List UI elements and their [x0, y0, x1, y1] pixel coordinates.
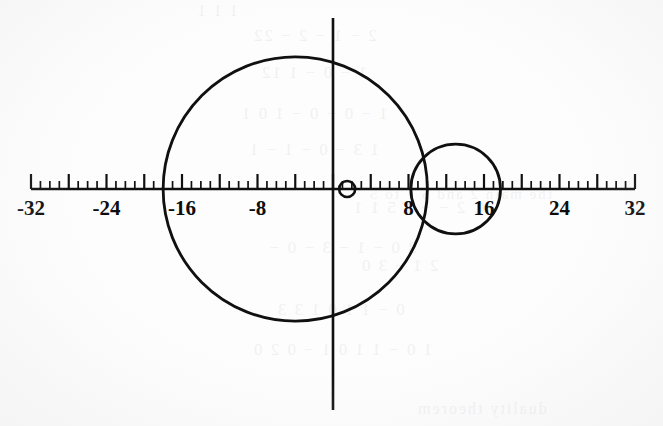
x-tick-label: 32	[625, 198, 646, 219]
x-tick-label: 24	[549, 198, 570, 219]
x-tick-label: 16	[474, 198, 495, 219]
x-tick-label: -32	[17, 198, 45, 219]
figure-canvas: 1 1 12 − 1 − 2 − 221 − 0 − 1 121 − 0 − 0…	[0, 0, 663, 426]
x-tick-label: -24	[93, 198, 121, 219]
x-tick-label: -8	[249, 198, 267, 219]
x-tick-label: 8	[403, 198, 414, 219]
x-tick-label: -16	[168, 198, 196, 219]
